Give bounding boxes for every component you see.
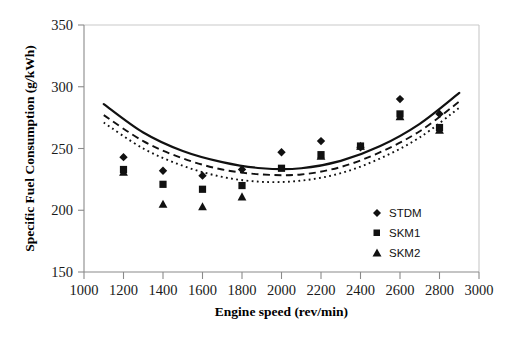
x-tick-label-3000: 3000 (465, 282, 494, 298)
x-tick-label-2800: 2800 (425, 282, 454, 298)
point-skm1-1800 (238, 182, 245, 189)
y-tick-label-300: 300 (51, 79, 73, 95)
x-tick-label-1600: 1600 (188, 282, 217, 298)
point-skm2-1600 (198, 202, 207, 210)
legend: STDM SKM1 SKM2 (373, 207, 422, 259)
y-tick-label-200: 200 (51, 202, 73, 218)
scatter-plot: 350 300 250 200 150 1000 1200 1400 1600 … (0, 0, 513, 338)
legend-item-stdm[interactable]: STDM (373, 207, 422, 219)
point-stdm-2200 (317, 137, 325, 145)
y-tick-label-250: 250 (51, 141, 73, 157)
x-axis-title: Engine speed (rev/min) (215, 304, 348, 319)
diamond-icon (373, 209, 381, 217)
x-tick-label-2000: 2000 (267, 282, 296, 298)
point-stdm-1600 (198, 171, 206, 179)
curve-fit-dashed (104, 102, 460, 176)
x-tick-label-2400: 2400 (346, 282, 375, 298)
point-skm2-1400 (159, 200, 168, 208)
x-tick-label-1000: 1000 (70, 282, 99, 298)
point-stdm-1200 (119, 153, 127, 161)
point-skm2-1800 (238, 192, 247, 200)
point-stdm-1400 (159, 167, 167, 175)
point-stdm-2600 (396, 95, 404, 103)
y-axis-ticks (78, 25, 84, 272)
point-skm1-1400 (159, 181, 166, 188)
legend-item-skm2[interactable]: SKM2 (373, 247, 421, 259)
x-axis-tick-labels: 1000 1200 1400 1600 1800 2000 2200 2400 … (70, 282, 494, 298)
legend-item-skm1[interactable]: SKM1 (374, 227, 421, 239)
y-tick-label-150: 150 (51, 264, 73, 280)
x-axis-ticks (84, 272, 479, 279)
legend-label-skm1: SKM1 (389, 227, 420, 239)
legend-label-skm2: SKM2 (389, 247, 420, 259)
point-stdm-2000 (277, 148, 285, 156)
x-tick-label-1200: 1200 (109, 282, 138, 298)
chart-figure: 350 300 250 200 150 1000 1200 1400 1600 … (0, 0, 513, 338)
series-skm2 (119, 112, 444, 210)
x-tick-label-2600: 2600 (386, 282, 415, 298)
x-tick-label-1400: 1400 (149, 282, 178, 298)
y-tick-label-350: 350 (51, 17, 73, 33)
y-axis-tick-labels: 350 300 250 200 150 (51, 17, 73, 280)
point-skm1-1600 (199, 186, 206, 193)
x-tick-label-1800: 1800 (228, 282, 257, 298)
square-icon (374, 230, 381, 237)
y-axis-title: Specific Fuel Consumption (g/kWh) (22, 45, 37, 252)
point-skm1-2000 (278, 165, 285, 172)
legend-label-stdm: STDM (389, 207, 422, 219)
triangle-icon (373, 249, 382, 257)
x-tick-label-2200: 2200 (307, 282, 336, 298)
curve-fit-solid (104, 93, 460, 169)
